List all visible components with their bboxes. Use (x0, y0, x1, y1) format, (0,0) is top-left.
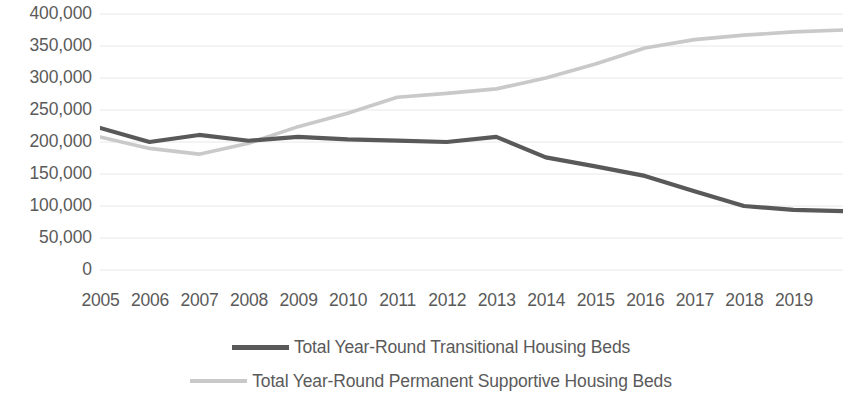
y-axis-tick-label: 250,000 (4, 101, 92, 119)
line-chart: 400,000350,000300,000250,000200,000150,0… (0, 0, 862, 411)
chart-legend: Total Year-Round Transitional Housing Be… (0, 330, 862, 408)
x-axis-tick-label: 2012 (424, 288, 471, 312)
x-axis: 2005200620072008200920102011201220132014… (100, 288, 852, 316)
legend-item[interactable]: Total Year-Round Permanent Supportive Ho… (0, 364, 862, 398)
y-axis-tick-label: 150,000 (4, 165, 92, 183)
x-axis-tick-label: 2007 (176, 288, 223, 312)
legend-swatch-icon (232, 345, 289, 350)
x-axis-tick-label: 2015 (572, 288, 619, 312)
x-axis-tick-label: 2005 (77, 288, 124, 312)
x-axis-tick-label: 2013 (473, 288, 520, 312)
legend-item[interactable]: Total Year-Round Transitional Housing Be… (0, 330, 862, 364)
plot-area (100, 0, 843, 285)
y-axis-tick-label: 50,000 (4, 229, 92, 247)
x-axis-tick-label: 2017 (671, 288, 718, 312)
x-axis-tick-label: 2014 (523, 288, 570, 312)
y-axis-tick-label: 100,000 (4, 197, 92, 215)
y-axis-tick-label: 200,000 (4, 133, 92, 151)
legend-swatch-icon (190, 379, 247, 383)
y-axis-tick-label: 350,000 (4, 37, 92, 55)
y-axis-tick-label: 0 (4, 261, 92, 279)
plot-svg (100, 0, 843, 285)
series-line (100, 128, 843, 211)
x-axis-tick-label: 2018 (721, 288, 768, 312)
x-axis-tick-label: 2016 (622, 288, 669, 312)
y-axis-tick-label: 300,000 (4, 69, 92, 87)
y-axis-tick-label: 400,000 (4, 5, 92, 23)
x-axis-tick-label: 2008 (226, 288, 273, 312)
x-axis-tick-label: 2011 (374, 288, 421, 312)
x-axis-tick-label: 2006 (127, 288, 174, 312)
x-axis-tick-label: 2009 (275, 288, 322, 312)
x-axis-tick-label: 2010 (325, 288, 372, 312)
x-axis-tick-label: 2019 (770, 288, 817, 312)
legend-item-label: Total Year-Round Permanent Supportive Ho… (252, 370, 672, 392)
y-axis: 400,000350,000300,000250,000200,000150,0… (0, 0, 92, 290)
legend-item-label: Total Year-Round Transitional Housing Be… (294, 336, 630, 358)
